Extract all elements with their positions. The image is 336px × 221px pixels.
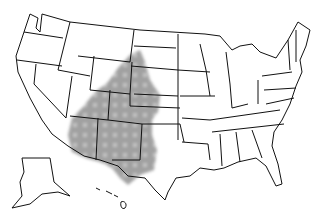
alaska-inset	[12, 158, 70, 208]
hawaii-inset	[96, 188, 126, 209]
us-range-map: United States range map	[0, 0, 336, 221]
state-borders	[16, 14, 310, 200]
